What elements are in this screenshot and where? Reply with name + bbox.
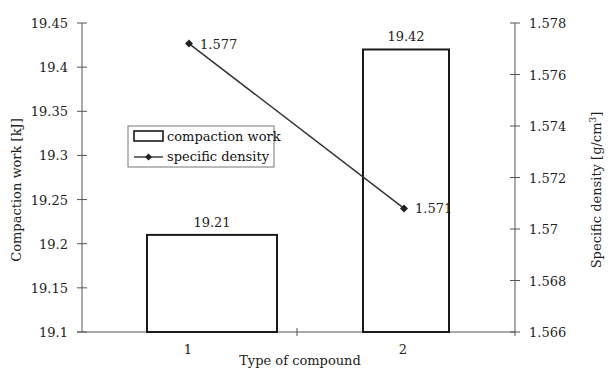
bar-data-label: 19.21 — [193, 215, 230, 230]
bar-compaction-work — [147, 235, 277, 332]
left-axis-tick-label: 19.25 — [31, 193, 68, 208]
right-axis-tick-label: 1.57 — [529, 222, 558, 237]
left-axis-tick-label: 19.4 — [39, 60, 68, 75]
right-axis-title-end: ] — [589, 112, 604, 117]
right-axis: 1.5661.5681.571.5721.5741.5761.578 — [510, 16, 566, 340]
bars: 19.2119.42 — [147, 29, 449, 332]
density-data-label: 1.577 — [200, 37, 237, 52]
left-axis-tick-label: 19.15 — [31, 281, 68, 296]
x-axis-tick-label: 2 — [399, 342, 407, 357]
legend-label-specific-density: specific density — [167, 149, 270, 164]
right-axis-tick-label: 1.574 — [529, 119, 566, 134]
right-axis-title: Specific density [g/cm3] — [588, 112, 604, 269]
chart: 19.119.1519.219.2519.319.3519.419.45 1.5… — [0, 0, 616, 383]
right-axis-tick-label: 1.576 — [529, 68, 566, 83]
bar-data-label: 19.42 — [387, 29, 424, 44]
left-axis-tick-label: 19.45 — [31, 16, 68, 31]
left-axis-title: Compaction work [kJ] — [9, 118, 24, 262]
x-axis-title: Type of compound — [239, 353, 361, 368]
legend-label-compaction-work: compaction work — [167, 129, 281, 144]
left-axis-tick-label: 19.35 — [31, 104, 68, 119]
left-axis: 19.119.1519.219.2519.319.3519.419.45 — [31, 16, 87, 340]
left-axis-tick-label: 19.3 — [39, 148, 68, 163]
bar-compaction-work — [363, 49, 449, 332]
right-axis-tick-label: 1.572 — [529, 171, 566, 186]
left-axis-tick-label: 19.2 — [39, 237, 68, 252]
legend: compaction work specific density — [128, 126, 281, 167]
density-data-label: 1.571 — [415, 201, 452, 216]
right-axis-tick-label: 1.568 — [529, 274, 566, 289]
x-axis-tick-label: 1 — [184, 342, 192, 357]
left-axis-tick-label: 19.1 — [39, 325, 68, 340]
legend-bar-swatch — [134, 131, 163, 141]
right-axis-title-main: Specific density [g/cm — [589, 123, 604, 269]
right-axis-tick-label: 1.566 — [529, 325, 566, 340]
right-axis-tick-label: 1.578 — [529, 16, 566, 31]
